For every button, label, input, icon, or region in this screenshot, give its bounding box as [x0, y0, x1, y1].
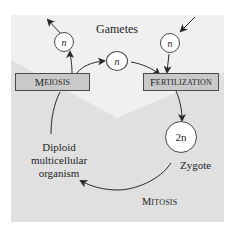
gamete-out-ploidy: n — [62, 37, 67, 48]
gametes-label: Gametes — [96, 23, 138, 35]
organism-label-line2: multicellular — [29, 154, 89, 167]
mitosis-label-initial: M — [142, 196, 151, 207]
organism-label: Diploid multicellular organism — [29, 141, 89, 180]
mitosis-label: MITOSIS — [142, 192, 177, 208]
gamete-transfer-ploidy: n — [115, 56, 120, 67]
life-cycle-diagram: Gametes n n n MEIOSIS FERTILIZATION 2n Z… — [0, 0, 234, 233]
gamete-in-cell: n — [160, 33, 180, 53]
gamete-in-ploidy: n — [168, 38, 173, 49]
gamete-out-cell: n — [54, 32, 74, 52]
mitosis-label-rest: ITOSIS — [151, 198, 177, 207]
zygote-cell: 2n — [165, 121, 197, 153]
meiosis-box: MEIOSIS — [15, 73, 90, 91]
organism-label-line1: Diploid — [29, 141, 89, 154]
zygote-ploidy: 2n — [176, 131, 187, 143]
organism-label-line3: organism — [29, 167, 89, 180]
zygote-label: Zygote — [180, 160, 211, 171]
fertilization-box: FERTILIZATION — [143, 73, 219, 91]
gamete-transfer-cell: n — [106, 51, 128, 71]
meiosis-label-rest: EIOSIS — [44, 78, 70, 87]
meiosis-label-initial: M — [35, 77, 44, 88]
fertilization-label-rest: ERTILIZATION — [156, 78, 212, 87]
